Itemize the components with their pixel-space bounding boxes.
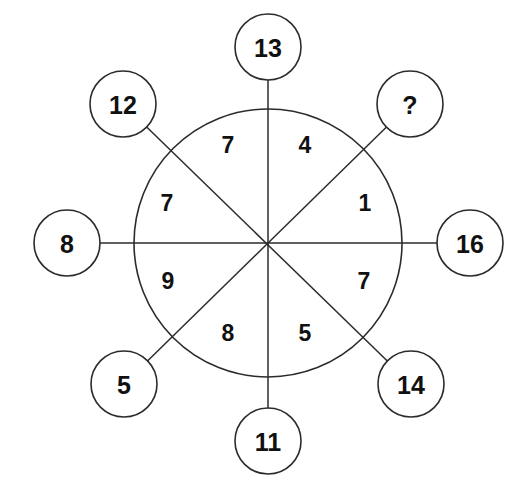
sector-right-lower-value: 7 — [358, 268, 371, 294]
node-top-right-value: ? — [402, 91, 417, 119]
node-top-left[interactable]: 12 — [90, 71, 156, 137]
sector-left-upper-value: 7 — [161, 190, 174, 216]
node-left[interactable]: 8 — [34, 210, 100, 276]
wheel-puzzle-diagram: 7 4 7 1 9 7 8 5 13 ? 16 — [0, 0, 524, 494]
node-top-left-value: 12 — [109, 91, 137, 119]
node-top-right[interactable]: ? — [377, 71, 443, 137]
sector-right-upper-value: 1 — [359, 190, 372, 216]
node-bottom-left-value: 5 — [117, 371, 131, 399]
sector-top-left-value: 7 — [222, 132, 235, 158]
sector-top-right-value: 4 — [299, 132, 312, 158]
node-bottom-left[interactable]: 5 — [91, 351, 157, 417]
node-top-value: 13 — [254, 34, 282, 62]
node-bottom-right[interactable]: 14 — [378, 351, 444, 417]
node-bottom-value: 11 — [255, 428, 282, 456]
node-bottom[interactable]: 11 — [235, 408, 301, 474]
node-bottom-right-value: 14 — [397, 371, 425, 399]
node-right-value: 16 — [456, 230, 484, 258]
node-left-value: 8 — [60, 230, 74, 258]
puzzle-canvas: 7 4 7 1 9 7 8 5 13 ? 16 — [0, 0, 524, 494]
sector-bottom-right-value: 5 — [299, 320, 312, 346]
node-top[interactable]: 13 — [235, 14, 301, 80]
node-right[interactable]: 16 — [437, 210, 503, 276]
sector-bottom-left-value: 8 — [222, 320, 235, 346]
sector-left-lower-value: 9 — [162, 268, 175, 294]
